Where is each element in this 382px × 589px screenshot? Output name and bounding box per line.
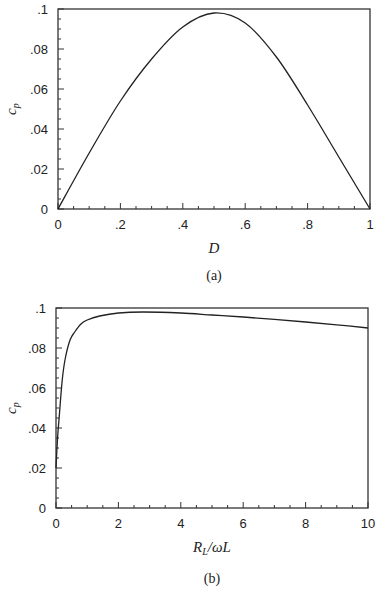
y-tick-label: .06 <box>28 381 46 396</box>
panel-caption: (a) <box>206 268 222 284</box>
figure: 0.2.4.6.810.02.04.06.08.1cpD(a)02468100.… <box>0 0 382 589</box>
y-tick-label: .08 <box>30 42 48 57</box>
x-tick-label: .6 <box>240 217 251 232</box>
panel-caption: (b) <box>204 571 221 587</box>
y-tick-label: .1 <box>35 301 46 316</box>
plot-frame <box>56 308 368 508</box>
x-tick-label: 8 <box>302 516 309 531</box>
chart-panel-b: 02468100.02.04.06.08.1cpRL/ωL(b) <box>3 301 375 587</box>
x-tick-label: 10 <box>361 516 375 531</box>
y-tick-label: .02 <box>30 162 48 177</box>
y-axis-title: cp <box>3 402 21 414</box>
x-tick-label: .2 <box>115 217 126 232</box>
y-axis-title: cp <box>3 103 21 115</box>
chart-panel-a: 0.2.4.6.810.02.04.06.08.1cpD(a) <box>3 2 374 284</box>
data-line <box>56 312 368 468</box>
y-tick-label: .04 <box>28 421 46 436</box>
x-tick-label: 6 <box>240 516 247 531</box>
x-tick-label: .8 <box>302 217 313 232</box>
x-tick-label: 1 <box>366 217 373 232</box>
x-axis-title: RL/ωL <box>192 539 231 557</box>
x-tick-label: .4 <box>177 217 188 232</box>
x-tick-label: 2 <box>115 516 122 531</box>
y-tick-label: .02 <box>28 461 46 476</box>
x-axis-title: D <box>208 240 220 256</box>
y-tick-label: .04 <box>30 122 48 137</box>
data-line <box>58 13 370 209</box>
plot-frame <box>58 9 370 209</box>
y-tick-label: 0 <box>41 202 48 217</box>
x-tick-label: 0 <box>52 516 59 531</box>
x-tick-label: 4 <box>177 516 184 531</box>
x-tick-label: 0 <box>54 217 61 232</box>
y-tick-label: .08 <box>28 341 46 356</box>
y-tick-label: .06 <box>30 82 48 97</box>
y-tick-label: 0 <box>39 501 46 516</box>
y-tick-label: .1 <box>37 2 48 17</box>
